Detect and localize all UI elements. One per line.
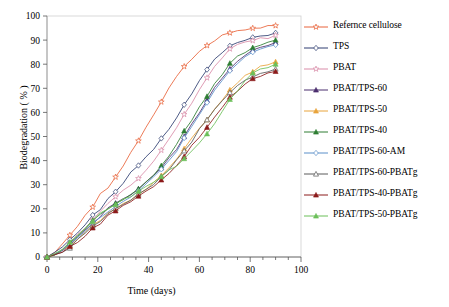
x-tick-label: 100 xyxy=(294,265,309,275)
x-tick-label: 60 xyxy=(195,265,205,275)
legend-marker-icon xyxy=(303,208,329,220)
x-axis-title: Time (days) xyxy=(0,285,303,296)
legend-item-refernce-cellulose[interactable]: Refernce cellulose xyxy=(303,14,447,35)
x-tick-label: 20 xyxy=(93,265,103,275)
x-tick-label: 80 xyxy=(245,265,255,275)
chart-figure: 0102030405060708090100 020406080100 Biod… xyxy=(0,0,449,307)
legend-item-pbat-tps-50[interactable]: PBAT/TPS-50 xyxy=(303,98,447,119)
x-tick-label: 40 xyxy=(144,265,154,275)
legend-label: PBAT xyxy=(333,62,356,72)
data-point-open-diamond xyxy=(314,45,319,50)
chart-legend: Refernce celluloseTPSPBATPBAT/TPS-60PBAT… xyxy=(303,14,447,224)
y-tick-label: 30 xyxy=(31,180,41,190)
legend-item-pbat-tps-40-pbatg[interactable]: PBAT/TPS-40-PBATg xyxy=(303,182,447,203)
y-tick-label: 50 xyxy=(31,132,41,142)
x-axis-ticks: 020406080100 xyxy=(45,257,309,275)
legend-label: PBAT/TPS-60-PBATg xyxy=(333,167,417,177)
legend-label: Refernce cellulose xyxy=(333,20,402,30)
legend-item-pbat-tps-40[interactable]: PBAT/TPS-40 xyxy=(303,119,447,140)
y-tick-label: 20 xyxy=(31,204,41,214)
legend-marker-icon xyxy=(303,40,329,52)
legend-item-pbat-tps-50-pbatg[interactable]: PBAT/TPS-50-PBATg xyxy=(303,203,447,224)
x-tick-label: 0 xyxy=(45,265,50,275)
legend-label: PBAT/TPS-40-PBATg xyxy=(333,188,417,198)
y-tick-label: 90 xyxy=(31,36,41,46)
legend-marker-icon xyxy=(303,103,329,115)
legend-item-pbat-tps-60-am[interactable]: PBAT/TPS-60-AM xyxy=(303,140,447,161)
y-tick-label: 70 xyxy=(31,84,41,94)
data-point-open-star xyxy=(313,24,319,29)
y-tick-label: 100 xyxy=(26,11,41,21)
legend-label: PBAT/TPS-50-PBATg xyxy=(333,209,417,219)
legend-label: PBAT/TPS-60 xyxy=(333,83,387,93)
y-tick-label: 80 xyxy=(31,60,41,70)
legend-marker-icon xyxy=(303,166,329,178)
legend-marker-icon xyxy=(303,61,329,73)
y-axis-title: Biodegradation ( % ) xyxy=(18,38,29,218)
legend-marker-icon xyxy=(303,145,329,157)
y-tick-label: 10 xyxy=(31,228,41,238)
legend-marker-icon xyxy=(303,19,329,31)
legend-label: PBAT/TPS-40 xyxy=(333,125,387,135)
legend-marker-icon xyxy=(303,187,329,199)
data-point-open-star xyxy=(313,66,319,71)
legend-marker-icon xyxy=(303,124,329,136)
y-axis-ticks: 0102030405060708090100 xyxy=(26,11,47,262)
legend-item-tps[interactable]: TPS xyxy=(303,35,447,56)
legend-item-pbat-tps-60-pbatg[interactable]: PBAT/TPS-60-PBATg xyxy=(303,161,447,182)
legend-label: TPS xyxy=(333,41,349,51)
legend-marker-icon xyxy=(303,82,329,94)
y-tick-label: 40 xyxy=(31,156,41,166)
y-tick-label: 0 xyxy=(35,252,40,262)
legend-label: PBAT/TPS-50 xyxy=(333,104,387,114)
legend-item-pbat[interactable]: PBAT xyxy=(303,56,447,77)
legend-label: PBAT/TPS-60-AM xyxy=(333,146,405,156)
data-point-open-diamond xyxy=(314,150,319,155)
y-tick-label: 60 xyxy=(31,108,41,118)
plot-area xyxy=(47,16,301,257)
plot-frame xyxy=(47,16,301,257)
legend-item-pbat-tps-60[interactable]: PBAT/TPS-60 xyxy=(303,77,447,98)
